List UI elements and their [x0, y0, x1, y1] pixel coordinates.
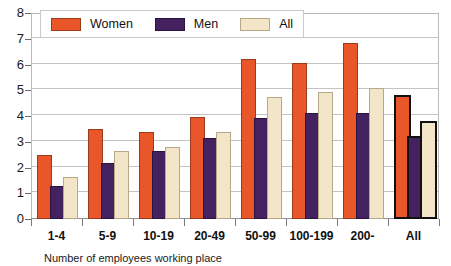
- y-tick-mark: [25, 90, 31, 91]
- bar-all-20-49[interactable]: [216, 132, 231, 219]
- y-tick-label: 6: [2, 58, 24, 71]
- bar-all-1-4[interactable]: [63, 177, 78, 219]
- bars-layer: [31, 13, 439, 219]
- y-tick-mark: [25, 116, 31, 117]
- y-tick-mark: [25, 168, 31, 169]
- x-tick-label-50-99: 50-99: [235, 229, 286, 243]
- bar-group-5-9[interactable]: [88, 13, 127, 219]
- y-tick-label: 1: [2, 186, 24, 199]
- x-axis-labels: 1-45-910-1920-4950-99100-199200-All: [31, 229, 439, 249]
- x-tick-label-100-199: 100-199: [286, 229, 337, 243]
- x-tick-mark: [133, 219, 134, 226]
- y-tick-mark: [25, 219, 31, 220]
- y-tick-mark: [25, 39, 31, 40]
- legend-entry-all[interactable]: All: [240, 17, 293, 31]
- bar-group-200[interactable]: [343, 13, 382, 219]
- y-tick-label: 3: [2, 135, 24, 148]
- x-tick-label-20-49: 20-49: [184, 229, 235, 243]
- legend-label-all: All: [279, 17, 293, 31]
- legend-swatch-men: [155, 18, 185, 31]
- y-tick-label: 5: [2, 83, 24, 96]
- legend-entry-women[interactable]: Women: [51, 17, 133, 31]
- bar-chart: 012345678 1-45-910-1920-4950-99100-19920…: [0, 0, 451, 266]
- x-tick-mark: [286, 219, 287, 226]
- x-tick-label-5-9: 5-9: [82, 229, 133, 243]
- bar-group-all[interactable]: [394, 13, 433, 219]
- bar-group-20-49[interactable]: [190, 13, 229, 219]
- bar-all-all[interactable]: [420, 121, 437, 219]
- legend-label-women: Women: [90, 17, 133, 31]
- x-tick-mark: [388, 219, 389, 226]
- y-tick-mark: [25, 65, 31, 66]
- y-tick-label: 2: [2, 161, 24, 174]
- bar-group-1-4[interactable]: [37, 13, 76, 219]
- bar-group-50-99[interactable]: [241, 13, 280, 219]
- chart-legend: WomenMenAll: [40, 10, 304, 38]
- bar-group-100-199[interactable]: [292, 13, 331, 219]
- y-tick-label: 4: [2, 109, 24, 122]
- y-tick-label: 8: [2, 6, 24, 19]
- bar-all-50-99[interactable]: [267, 97, 282, 219]
- y-tick-mark: [25, 13, 31, 14]
- x-tick-mark: [337, 219, 338, 226]
- bar-all-10-19[interactable]: [165, 147, 180, 219]
- y-axis: 012345678: [2, 0, 24, 226]
- legend-swatch-all: [240, 18, 270, 31]
- bar-all-200[interactable]: [369, 88, 384, 219]
- bar-group-10-19[interactable]: [139, 13, 178, 219]
- y-tick-mark: [25, 193, 31, 194]
- x-tick-label-all: All: [388, 229, 439, 243]
- x-tick-mark: [439, 219, 440, 226]
- x-tick-mark: [82, 219, 83, 226]
- chart-caption: Number of employees working place: [44, 252, 222, 266]
- x-axis-ticks: [31, 219, 439, 227]
- bar-all-100-199[interactable]: [318, 92, 333, 219]
- y-tick-label: 7: [2, 32, 24, 45]
- legend-label-men: Men: [194, 17, 218, 31]
- x-tick-label-200: 200-: [337, 229, 388, 243]
- x-tick-mark: [184, 219, 185, 226]
- legend-swatch-women: [51, 18, 81, 31]
- x-tick-label-10-19: 10-19: [133, 229, 184, 243]
- x-tick-mark: [31, 219, 32, 226]
- x-tick-label-1-4: 1-4: [31, 229, 82, 243]
- x-tick-mark: [235, 219, 236, 226]
- bar-all-5-9[interactable]: [114, 151, 129, 219]
- y-tick-label: 0: [2, 212, 24, 225]
- legend-entry-men[interactable]: Men: [155, 17, 218, 31]
- y-tick-mark: [25, 142, 31, 143]
